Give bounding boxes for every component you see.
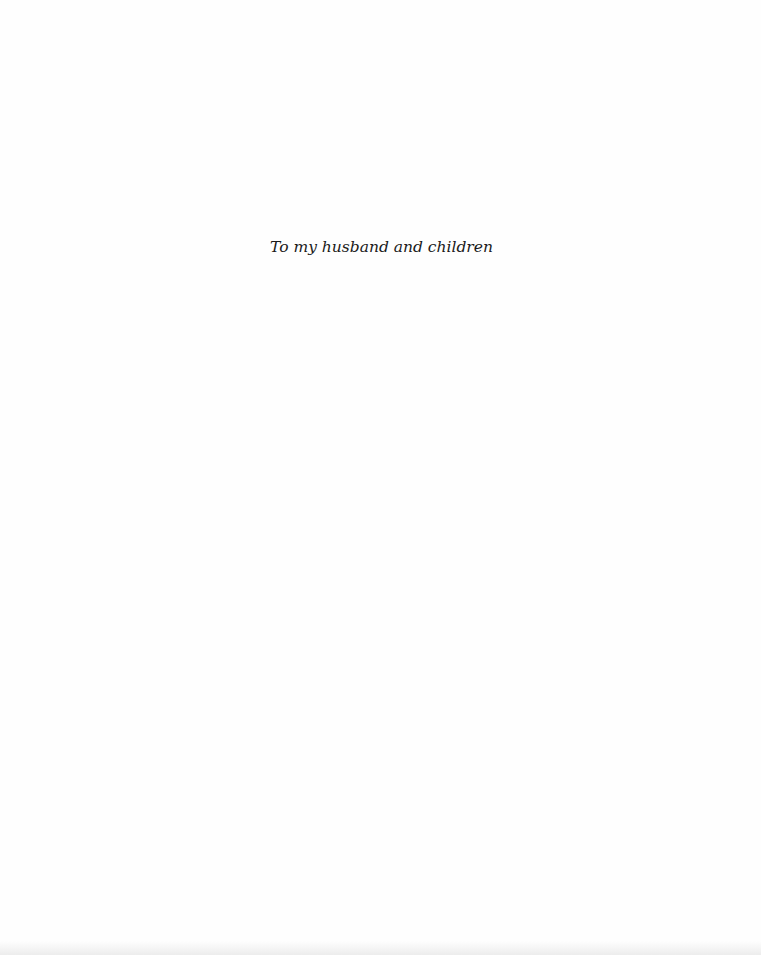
document-page: To my husband and children [0, 0, 761, 955]
dedication-text: To my husband and children [0, 238, 761, 256]
scan-bottom-edge [0, 941, 761, 955]
